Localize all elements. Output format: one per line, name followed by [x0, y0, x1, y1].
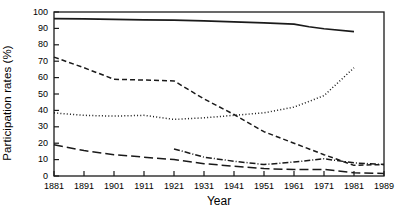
- series-solid: [54, 19, 354, 32]
- x-axis-label: Year: [54, 194, 384, 208]
- y-tick-label: 100: [22, 8, 48, 17]
- y-tick-label: 90: [22, 24, 48, 33]
- series-dotted: [54, 68, 354, 120]
- x-tick-label: 1931: [187, 182, 221, 191]
- y-tick-label: 0: [22, 172, 48, 181]
- y-tick-label: 10: [22, 155, 48, 164]
- x-tick-label: 1941: [217, 182, 251, 191]
- x-tick-label: 1891: [67, 182, 101, 191]
- x-tick-label: 1901: [97, 182, 131, 191]
- y-tick-label: 70: [22, 57, 48, 66]
- y-tick-label: 60: [22, 73, 48, 82]
- y-axis-label-wrapper: Participation rates (%): [0, 72, 20, 92]
- y-tick-label: 20: [22, 139, 48, 148]
- axis-frame: [54, 12, 384, 176]
- x-tick-label: 1971: [307, 182, 341, 191]
- y-tick-label: 40: [22, 106, 48, 115]
- x-tick-label: 1961: [277, 182, 311, 191]
- x-tick-label: 1981: [337, 182, 371, 191]
- x-tick-label: 1911: [127, 182, 161, 191]
- y-tick-marks: [54, 12, 59, 176]
- y-tick-label: 50: [22, 90, 48, 99]
- x-tick-label: 1881: [37, 182, 71, 191]
- x-tick-marks: [54, 171, 384, 176]
- series-short-dash: [54, 57, 384, 165]
- y-axis-label: Participation rates (%): [1, 23, 19, 183]
- x-tick-label: 1989: [367, 182, 399, 191]
- x-tick-label: 1951: [247, 182, 281, 191]
- x-tick-label: 1921: [157, 182, 191, 191]
- y-tick-label: 30: [22, 122, 48, 131]
- series-dash-dot: [174, 149, 384, 165]
- data-series-layer: [54, 19, 384, 174]
- y-tick-label: 80: [22, 40, 48, 49]
